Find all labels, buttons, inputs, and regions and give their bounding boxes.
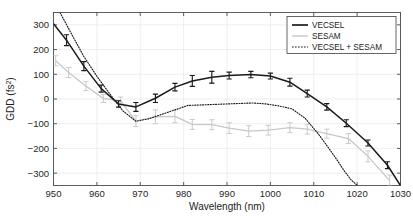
legend-label: VECSEL (312, 21, 345, 30)
legend-label: VECSEL + SESAM (312, 43, 382, 52)
x-tick-labels: 9509609709809901000101010201030 (46, 188, 412, 199)
y-tick-label: 300 (33, 19, 49, 30)
chart-legend[interactable]: VECSELSESAMVECSEL + SESAM (287, 17, 396, 54)
y-tick-label: 100 (33, 69, 49, 80)
x-tick-label: 960 (89, 188, 105, 199)
y-axis-title: GDD (fs2) (5, 77, 16, 120)
gdd-dispersion-chart: 9509609709809901000101010201030 30020010… (0, 0, 413, 224)
x-tick-label: 950 (46, 188, 62, 199)
chart-canvas: 9509609709809901000101010201030 30020010… (0, 0, 413, 224)
x-tick-label: 1030 (390, 188, 411, 199)
x-tick-label: 1010 (303, 188, 324, 199)
y-tick-label: −300 (28, 168, 49, 179)
y-tick-label: 200 (33, 44, 49, 55)
y-tick-label: −200 (28, 143, 49, 154)
x-tick-label: 1000 (260, 188, 281, 199)
x-tick-label: 970 (132, 188, 148, 199)
x-tick-label: 990 (219, 188, 235, 199)
y-tick-label: 0 (44, 93, 49, 104)
x-axis-title: Wavelength (nm) (189, 201, 265, 212)
x-tick-label: 1020 (347, 188, 368, 199)
legend-label: SESAM (312, 32, 341, 41)
y-tick-label: −100 (28, 118, 49, 129)
y-tick-labels: 3002001000−100−200−300 (28, 19, 49, 178)
x-tick-label: 980 (176, 188, 192, 199)
